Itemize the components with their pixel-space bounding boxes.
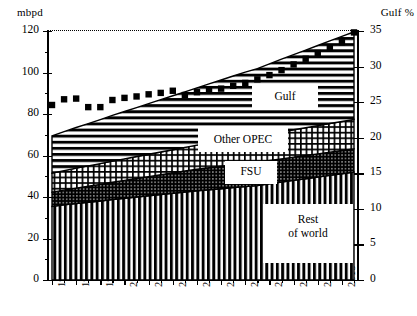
scatter-marker-gulf-percent <box>254 76 260 82</box>
x-axis-tick-mark <box>318 280 319 285</box>
chart-container: mbpd Gulf % 120100806040200 353025201510… <box>0 0 417 316</box>
scatter-marker-gulf-percent <box>145 91 151 97</box>
y-axis-left-tick-label: 60 <box>5 148 39 160</box>
series-label-gulf: Gulf <box>252 84 318 110</box>
y-axis-left-tick-label: 20 <box>5 231 39 243</box>
scatter-marker-gulf-percent <box>133 93 139 99</box>
scatter-marker-gulf-percent <box>85 104 91 110</box>
scatter-marker-gulf-percent <box>351 29 357 35</box>
y-axis-left-tick-label: 120 <box>5 23 39 35</box>
y-axis-left-tick-label: 80 <box>5 106 39 118</box>
scatter-marker-gulf-percent <box>278 67 284 73</box>
scatter-marker-gulf-percent <box>194 89 200 95</box>
y-axis-right-tick-label: 25 <box>370 94 400 106</box>
x-axis-tick-mark <box>100 280 101 285</box>
series-label-rest-of-world: Restof world <box>263 204 353 263</box>
scatter-marker-gulf-percent <box>170 88 176 94</box>
scatter-marker-gulf-percent <box>49 102 55 108</box>
y-axis-left-tick-label: 0 <box>5 272 39 284</box>
scatter-marker-gulf-percent <box>97 104 103 110</box>
scatter-marker-gulf-percent <box>73 95 79 101</box>
scatter-marker-gulf-percent <box>290 61 296 67</box>
y-axis-right-tick-label: 35 <box>370 23 400 35</box>
y-axis-left-tick-label: 100 <box>5 65 39 77</box>
x-axis-tick-mark <box>124 280 125 285</box>
x-axis-tick-mark <box>197 280 198 285</box>
y-axis-right-tick-label: 10 <box>370 201 400 213</box>
scatter-marker-gulf-percent <box>230 83 236 89</box>
x-axis-tick-mark <box>52 280 53 285</box>
scatter-marker-gulf-percent <box>61 96 67 102</box>
y-axis-right-tick-label: 30 <box>370 59 400 71</box>
scatter-marker-gulf-percent <box>109 97 115 103</box>
scatter-marker-gulf-percent <box>182 92 188 98</box>
scatter-marker-gulf-percent <box>121 95 127 101</box>
x-axis-tick-mark <box>149 280 150 285</box>
y-axis-right-tick-label: 15 <box>370 165 400 177</box>
y-axis-right-title: Gulf % <box>381 6 414 18</box>
x-axis-tick-mark <box>269 280 270 285</box>
x-axis-tick-mark <box>245 280 246 285</box>
scatter-marker-gulf-percent <box>266 72 272 78</box>
y-axis-left-tick-label: 40 <box>5 189 39 201</box>
scatter-marker-gulf-percent <box>339 39 345 45</box>
scatter-marker-gulf-percent <box>218 85 224 91</box>
scatter-marker-gulf-percent <box>302 56 308 62</box>
scatter-marker-gulf-percent <box>206 88 212 94</box>
x-axis-tick-mark <box>294 280 295 285</box>
series-label-rest-of-world-line2: of world <box>288 227 327 239</box>
scatter-marker-gulf-percent <box>327 45 333 51</box>
series-label-fsu: FSU <box>225 161 277 184</box>
x-axis-tick-mark <box>221 280 222 285</box>
y-axis-left-title: mbpd <box>17 6 43 18</box>
series-label-rest-of-world-line1: Rest <box>298 213 318 225</box>
scatter-marker-gulf-percent <box>158 90 164 96</box>
x-axis-tick-mark <box>342 280 343 285</box>
scatter-marker-gulf-percent <box>242 80 248 86</box>
x-axis-tick-mark <box>76 280 77 285</box>
series-label-other-opec: Other OPEC <box>198 128 288 152</box>
scatter-marker-gulf-percent <box>315 50 321 56</box>
y-axis-right-tick-label: 20 <box>370 130 400 142</box>
x-axis-tick-mark <box>173 280 174 285</box>
y-axis-right-tick-label: 5 <box>370 236 400 248</box>
y-axis-right-tick-label: 0 <box>370 272 400 284</box>
y-axis-left-tick-mark <box>43 280 52 281</box>
